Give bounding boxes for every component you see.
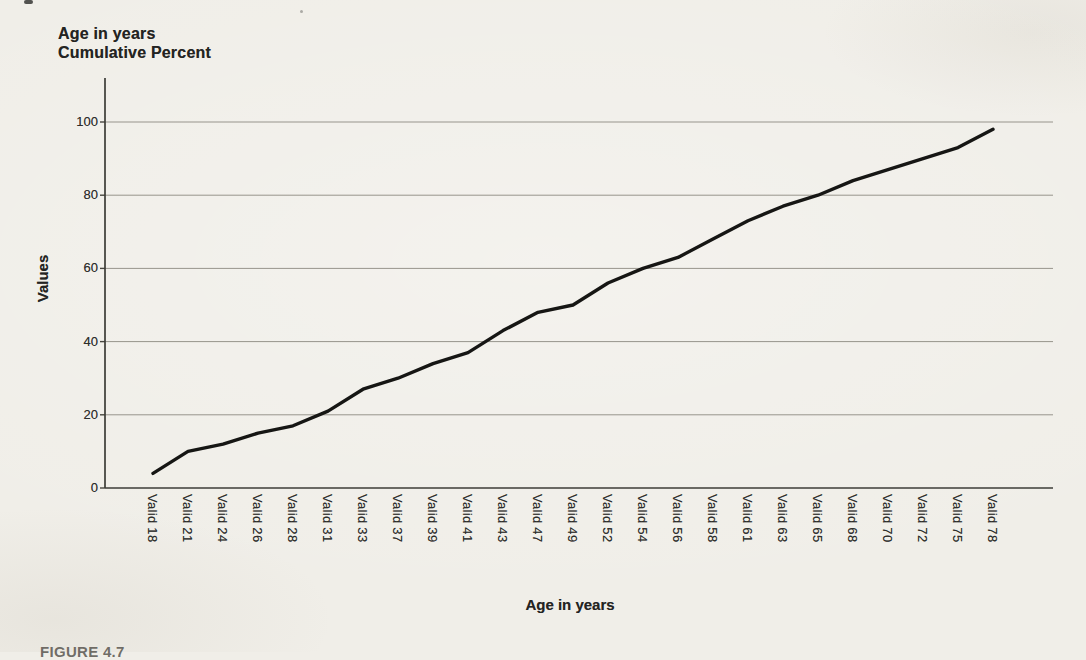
x-tick-label: Valid 37 [390,494,405,542]
x-tick-label: Valid 65 [810,494,825,542]
x-tick-label: Valid 33 [355,494,370,542]
x-tick-label: Valid 70 [880,494,895,542]
x-tick-label: Valid 78 [985,494,1000,542]
y-tick-label: 100 [62,114,98,129]
x-tick-label: Valid 31 [320,494,335,542]
x-tick-label: Valid 21 [180,494,195,542]
y-tick-label: 0 [62,480,98,495]
x-tick-label: Valid 72 [915,494,930,542]
x-tick-label: Valid 39 [425,494,440,542]
x-tick-label: Valid 24 [215,494,230,542]
x-tick-label: Valid 41 [460,494,475,542]
y-tick-label: 40 [62,334,98,349]
x-tick-label: Valid 68 [845,494,860,542]
x-tick-label: Valid 52 [600,494,615,542]
x-tick-label: Valid 63 [775,494,790,542]
y-tick-label: 20 [62,407,98,422]
x-tick-label: Valid 26 [250,494,265,542]
y-tick-label: 80 [62,187,98,202]
x-tick-label: Valid 54 [635,494,650,542]
x-axis-title: Age in years [455,596,685,613]
x-tick-label: Valid 58 [705,494,720,542]
x-tick-label: Valid 75 [950,494,965,542]
x-tick-label: Valid 61 [740,494,755,542]
x-tick-label: Valid 18 [145,494,160,542]
figure-caption: FIGURE 4.7 [40,643,125,660]
cumulative-percent-line [153,129,993,473]
x-tick-label: Valid 43 [495,494,510,542]
y-tick-label: 60 [62,260,98,275]
x-tick-label: Valid 49 [565,494,580,542]
x-tick-label: Valid 28 [285,494,300,542]
x-tick-label: Valid 56 [670,494,685,542]
x-tick-label: Valid 47 [530,494,545,542]
